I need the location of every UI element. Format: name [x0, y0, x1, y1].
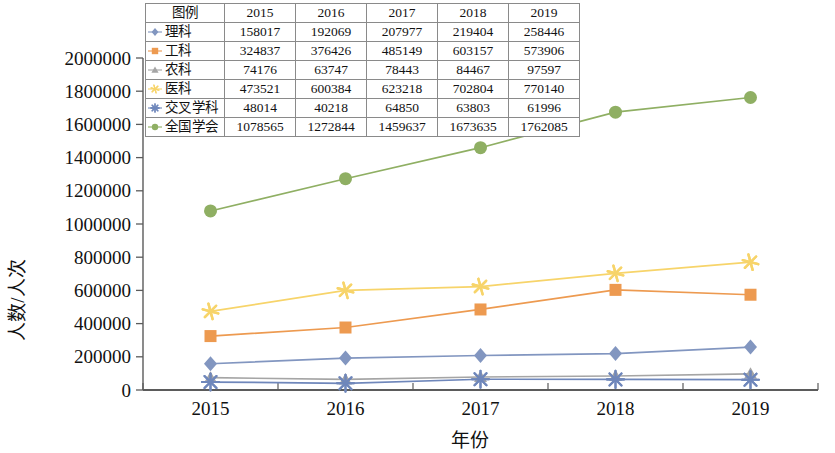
legend-series-label: 全国学会	[165, 118, 218, 136]
legend-value-cell: 64850	[367, 99, 438, 118]
data-point-marker	[742, 371, 759, 388]
y-axis-label: 人数/人次	[7, 259, 28, 340]
legend-table-row: 农科7417663747784438446797597	[146, 61, 580, 80]
legend-series-cell-工科: 工科	[146, 42, 225, 61]
legend-table-row: 工科324837376426485149603157573906	[146, 42, 580, 61]
y-tick-label: 2000000	[65, 48, 132, 69]
data-point-marker	[340, 322, 352, 334]
legend-series-label: 医科	[165, 80, 192, 98]
series-交叉学科	[202, 371, 759, 392]
legend-series-label: 农科	[165, 61, 192, 79]
data-point-marker	[337, 375, 354, 392]
legend-value-cell: 1673635	[438, 118, 509, 137]
legend-marker-icon	[148, 64, 162, 76]
data-point-marker	[609, 346, 622, 361]
x-tick-label: 2018	[597, 398, 635, 419]
x-tick-label: 2015	[192, 398, 230, 419]
data-point-marker	[745, 289, 757, 301]
legend-table-body: 理科158017192069207977219404258446工科324837…	[146, 23, 580, 137]
data-point-marker	[474, 141, 487, 154]
data-point-marker	[610, 284, 622, 296]
y-tick-label: 1200000	[65, 180, 132, 201]
legend-value-cell: 63747	[296, 61, 367, 80]
legend-data-table: 图例 2015 2016 2017 2018 2019 理科1580171920…	[145, 3, 580, 137]
legend-value-cell: 485149	[367, 42, 438, 61]
legend-value-cell: 84467	[438, 61, 509, 80]
legend-value-cell: 258446	[509, 23, 580, 42]
legend-value-cell: 207977	[367, 23, 438, 42]
legend-value-cell: 158017	[225, 23, 296, 42]
y-tick-label: 1800000	[65, 81, 132, 102]
data-point-marker	[202, 374, 219, 391]
legend-value-cell: 48014	[225, 99, 296, 118]
legend-value-cell: 1078565	[225, 118, 296, 137]
x-axis-label: 年份	[451, 430, 489, 451]
y-tick-label: 1000000	[65, 214, 132, 235]
data-point-marker	[475, 303, 487, 315]
legend-table-header-row: 图例 2015 2016 2017 2018 2019	[146, 4, 580, 23]
legend-header-cell-2019: 2019	[509, 4, 580, 23]
legend-marker-icon	[148, 102, 162, 114]
legend-value-cell: 770140	[509, 80, 580, 99]
data-point-marker	[205, 330, 217, 342]
legend-value-cell: 78443	[367, 61, 438, 80]
legend-series-cell-农科: 农科	[146, 61, 225, 80]
legend-header-cell-2016: 2016	[296, 4, 367, 23]
legend-table-row: 全国学会10785651272844145963716736351762085	[146, 118, 580, 137]
data-point-marker	[339, 351, 352, 366]
legend-value-cell: 376426	[296, 42, 367, 61]
y-tick-labels: 0200000400000600000800000100000012000001…	[65, 48, 132, 401]
legend-series-label: 交叉学科	[165, 99, 218, 117]
data-point-marker	[472, 371, 489, 388]
y-tick-label: 600000	[74, 280, 131, 301]
legend-value-cell: 603157	[438, 42, 509, 61]
legend-table-row: 理科158017192069207977219404258446	[146, 23, 580, 42]
legend-marker-icon	[148, 45, 162, 57]
series-工科	[205, 284, 757, 342]
x-tick-label: 2017	[462, 398, 500, 419]
data-point-marker	[607, 371, 624, 388]
legend-value-cell: 1762085	[509, 118, 580, 137]
legend-value-cell: 63803	[438, 99, 509, 118]
y-tick-label: 800000	[74, 247, 131, 268]
legend-value-cell: 40218	[296, 99, 367, 118]
legend-series-cell-全国学会: 全国学会	[146, 118, 225, 137]
y-tick-label: 200000	[74, 346, 131, 367]
data-point-marker	[339, 172, 352, 185]
y-tick-label: 1400000	[65, 147, 132, 168]
legend-value-cell: 702804	[438, 80, 509, 99]
legend-value-cell: 324837	[225, 42, 296, 61]
legend-value-cell: 97597	[509, 61, 580, 80]
legend-value-cell: 1272844	[296, 118, 367, 137]
x-tick-label: 2019	[732, 398, 770, 419]
legend-header-cell-2017: 2017	[367, 4, 438, 23]
legend-marker-icon	[148, 26, 162, 38]
legend-marker-icon	[148, 83, 162, 95]
legend-series-cell-理科: 理科	[146, 23, 225, 42]
legend-series-cell-交叉学科: 交叉学科	[146, 99, 225, 118]
legend-value-cell: 573906	[509, 42, 580, 61]
data-point-marker	[204, 204, 217, 217]
legend-table-row: 医科473521600384623218702804770140	[146, 80, 580, 99]
legend-value-cell: 600384	[296, 80, 367, 99]
legend-value-cell: 623218	[367, 80, 438, 99]
data-point-marker	[744, 340, 757, 355]
y-tick-label: 0	[122, 380, 132, 401]
legend-series-cell-医科: 医科	[146, 80, 225, 99]
series-理科	[204, 340, 757, 372]
legend-value-cell: 192069	[296, 23, 367, 42]
y-tick-label: 1600000	[65, 114, 132, 135]
legend-header-cell-2015: 2015	[225, 4, 296, 23]
legend-value-cell: 473521	[225, 80, 296, 99]
x-tick-label: 2016	[327, 398, 365, 419]
legend-value-cell: 219404	[438, 23, 509, 42]
legend-value-cell: 74176	[225, 61, 296, 80]
data-point-marker	[744, 91, 757, 104]
y-tick-label: 400000	[74, 313, 131, 334]
legend-value-cell: 1459637	[367, 118, 438, 137]
legend-series-label: 工科	[165, 42, 192, 60]
legend-series-label: 理科	[165, 23, 192, 41]
data-point-marker	[474, 348, 487, 363]
legend-header-cell-2018: 2018	[438, 4, 509, 23]
legend-header-cell-legend: 图例	[146, 4, 225, 23]
